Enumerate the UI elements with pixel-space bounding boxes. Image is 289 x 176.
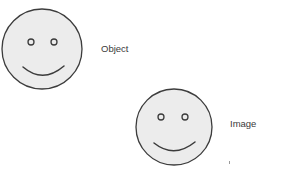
image-label: Image — [230, 119, 256, 129]
face-circle — [136, 89, 212, 165]
smiley-object — [2, 9, 82, 89]
face-circle — [2, 9, 82, 89]
diagram-canvas — [0, 0, 289, 176]
object-label: Object — [101, 44, 128, 54]
stray-mark — [229, 161, 230, 164]
smiley-image — [136, 89, 212, 165]
